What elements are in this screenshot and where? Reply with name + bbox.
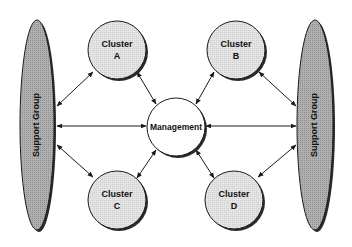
- support-group-right: Support Group: [297, 20, 335, 232]
- cluster-a: Cluster A: [88, 21, 148, 81]
- arrow-cluster-b-to-management: [196, 72, 214, 104]
- cluster-c-letter: C: [114, 201, 121, 211]
- cluster-d-title: Cluster: [218, 189, 250, 199]
- cluster-b: Cluster B: [207, 21, 267, 81]
- arrow-right-support-to-cluster-b: [259, 72, 296, 106]
- cluster-c: Cluster C: [88, 171, 148, 231]
- management-hub: Management: [147, 98, 207, 158]
- management-label: Management: [150, 122, 202, 132]
- arrow-cluster-d-to-management: [196, 150, 214, 178]
- arrow-right-support-to-cluster-d: [258, 145, 296, 177]
- cluster-b-title: Cluster: [220, 39, 252, 49]
- arrow-left-support-to-cluster-c: [57, 145, 93, 177]
- cluster-a-letter: A: [114, 51, 121, 61]
- organization-diagram: Support Group Support Group Cluster A Cl…: [0, 0, 352, 247]
- support-group-left-label: Support Group: [31, 93, 41, 157]
- arrow-cluster-c-to-management: [137, 150, 156, 178]
- support-group-left: Support Group: [20, 20, 56, 232]
- arrow-left-support-to-cluster-a: [57, 72, 93, 106]
- cluster-d-letter: D: [231, 201, 238, 211]
- cluster-a-title: Cluster: [101, 39, 133, 49]
- cluster-d: Cluster D: [205, 171, 265, 231]
- cluster-c-title: Cluster: [101, 189, 133, 199]
- arrow-cluster-a-to-management: [137, 72, 156, 104]
- cluster-b-letter: B: [233, 51, 240, 61]
- support-group-right-label: Support Group: [309, 93, 319, 157]
